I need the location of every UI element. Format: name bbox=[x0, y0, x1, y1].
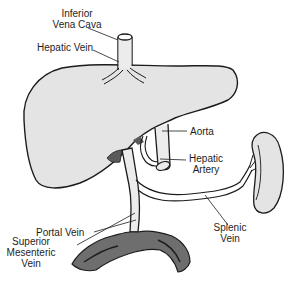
label-hepatic-artery-line1: Hepatic bbox=[185, 153, 227, 164]
label-splenic-vein-line2: Vein bbox=[208, 233, 252, 244]
label-smv-line2: Mesenteric bbox=[4, 247, 58, 258]
label-smv-line1: Superior bbox=[4, 236, 58, 247]
label-superior-mesenteric-vein: Superior Mesenteric Vein bbox=[4, 236, 58, 269]
label-inferior-vena-cava: Inferior Vena Cava bbox=[42, 8, 112, 30]
ivc-opening bbox=[118, 34, 132, 40]
label-aorta: Aorta bbox=[190, 126, 214, 137]
label-hepatic-vein: Hepatic Vein bbox=[37, 42, 93, 53]
ivc-body bbox=[119, 37, 132, 69]
label-hepatic-artery-line2: Artery bbox=[185, 164, 227, 175]
label-smv-line3: Vein bbox=[4, 258, 58, 269]
portal-vein-vessel bbox=[122, 148, 140, 232]
label-ivc-line1: Inferior bbox=[42, 8, 112, 19]
intestine-shape bbox=[72, 231, 190, 272]
label-ivc-line2: Vena Cava bbox=[42, 19, 112, 30]
label-hepatic-artery: Hepatic Artery bbox=[185, 153, 227, 175]
label-splenic-vein-line1: Splenic bbox=[208, 222, 252, 233]
spleen-shape bbox=[252, 133, 283, 213]
label-splenic-vein: Splenic Vein bbox=[208, 222, 252, 244]
